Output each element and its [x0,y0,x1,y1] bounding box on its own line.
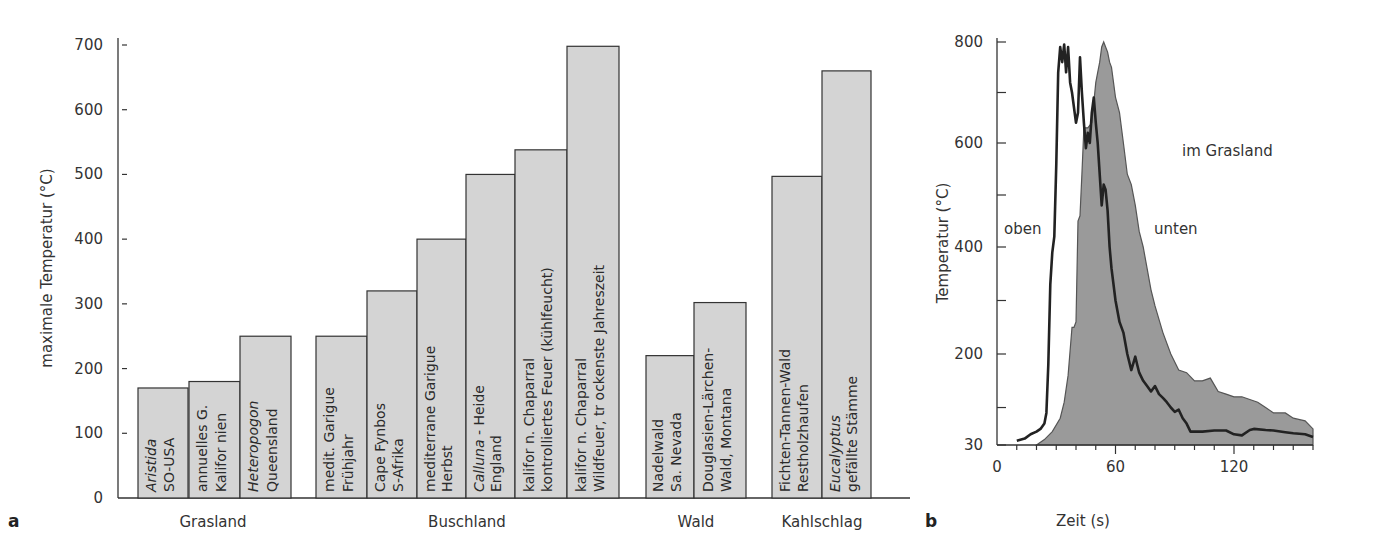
group-label: Buschland [428,513,506,531]
bar-label-line2: Restholzhaufen [795,384,811,492]
panel-b-xlabel: Zeit (s) [1056,512,1110,530]
y-tick-label: 600 [74,101,103,119]
bar-label-line2: Kalifor nien [213,413,229,492]
bar-label-line1: Cape Fynbos [372,403,388,492]
annotation-unten: unten [1154,220,1198,238]
bar-label-line1: Heteropogon [245,401,261,492]
bar-label-line1: Aristida [143,439,159,493]
panel-a-bars: AristidaSO-USAannuelles G.Kalifor nienHe… [138,46,871,498]
panel-b-letter: b [925,511,937,531]
bar-label-line2: Queensland [264,408,280,492]
panel-a-letter: a [8,511,19,531]
bar-label-line1: Eucalyptus [827,415,843,492]
bar-label-line2: Frühjahr [340,434,356,492]
panel-b-area-chart: 30200400600800060120 Temperatur (°C) Zei… [925,33,1313,531]
bar-label-line1: kalifor n. Chaparral [521,358,537,492]
bar-label-line2: Wildfeuer, tr ockenste Jahreszeit [591,264,607,492]
bar-label-line1: Fichten-Tannen-Wald [777,349,793,492]
bar-label-line2: S-Afrika [390,438,406,492]
bar-label-line2: Wald, Montana [718,388,734,492]
y-tick-label: 800 [954,33,983,51]
y-tick-label: 30 [964,436,983,454]
y-tick-label: 700 [74,36,103,54]
bar-label-line2: SO-USA [161,437,177,492]
bar-label-line2: England [488,435,504,492]
y-tick-label: 400 [954,238,983,256]
figure: 0100200300400500600700GraslandBuschlandW… [0,0,1374,550]
y-tick-label: 500 [74,165,103,183]
y-tick-label: 200 [954,345,983,363]
group-label: Grasland [179,513,246,531]
panel-b-plot [1017,42,1313,445]
panel-b-ylabel: Temperatur (°C) [934,183,952,305]
y-tick-label: 200 [74,360,103,378]
bar-label-line2: kontrolliertes Feuer (kühlfeucht) [539,267,555,492]
y-tick-label: 0 [93,489,103,507]
bar-label-line2: gefällte Stämme [844,376,860,492]
group-label: Wald [678,513,715,531]
bar-label-line2: Sa. Nevada [668,412,684,492]
bar-label-line1: Nadelwald [650,419,666,492]
bar-label-line1: annuelles G. [194,405,210,492]
y-tick-label: 100 [74,424,103,442]
panel-a-bar-chart: 0100200300400500600700GraslandBuschlandW… [8,36,910,531]
bar-label-line1: mediterrane Garigue [422,346,438,492]
bar-label-line1: kalifor n. Chaparral [573,358,589,492]
bar-label-line2: Herbst [439,445,455,492]
bar-label-line1: Douglasien-Lärchen- [700,348,716,492]
y-tick-label: 600 [954,134,983,152]
x-tick-label: 0 [992,458,1002,476]
x-tick-label: 60 [1106,458,1125,476]
bar-label-line1: Calluna - Heide [471,385,487,492]
bar-label-line1: medit. Garigue [321,387,337,492]
annotation-im-grasland: im Grasland [1182,142,1273,160]
group-label: Kahlschlag [782,513,863,531]
annotation-oben: oben [1004,220,1041,238]
y-tick-label: 400 [74,230,103,248]
panel-a-ylabel: maximale Temperatur (°C) [38,168,56,367]
x-tick-label: 120 [1220,458,1249,476]
y-tick-label: 300 [74,295,103,313]
